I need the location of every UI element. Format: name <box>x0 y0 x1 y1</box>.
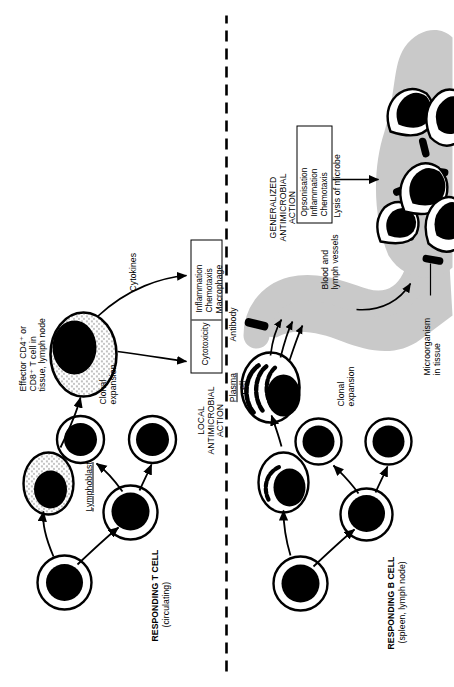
generalized-antimicrobial-action-box: Opsonisation Inflammation Chemotaxis <box>296 125 332 223</box>
generalized-antimicrobial-action-title: GENERALIZED ANTIMICROBIAL ACTION <box>268 159 297 255</box>
plasma-cell-label: Plasma cell <box>228 359 247 415</box>
t-clone-cell-2 <box>129 416 176 463</box>
plasma-cell <box>241 352 300 422</box>
responding-t-cell-sublabel: (circulating) <box>161 477 171 627</box>
microorganism-label: Microorganism in tissue <box>422 317 441 375</box>
lymphoblast-cell <box>23 452 73 514</box>
t-cell-activated <box>103 485 157 539</box>
b-cell-activated <box>340 488 392 540</box>
figure-canvas: RESPONDING T CELL (circulating) Clonal e… <box>0 0 454 687</box>
cytokines-label: Cytokines <box>128 252 138 291</box>
generalized-action-lysis: Lysis of microbe <box>332 154 342 217</box>
effector-t-cell-label: Effector CD4⁺ or CD8⁺ T cell in tissue, … <box>18 318 47 391</box>
generalized-action-chemotaxis: Chemotaxis <box>319 172 329 216</box>
local-action-cytotoxicity: Cytotoxicity <box>200 322 210 365</box>
generalized-action-inflammation: Inflammation <box>309 168 319 216</box>
b-clone-cell-2 <box>365 418 411 464</box>
b-lymphoblast-cell <box>258 452 308 512</box>
local-antimicrobial-action-title: LOCAL ANTIMICROBIAL ACTION <box>196 381 225 459</box>
local-action-macrophage-text: Macrophage <box>214 264 224 313</box>
responding-b-cell <box>273 556 327 610</box>
generalized-action-opsonisation: Opsonisation <box>299 167 309 216</box>
diagram-upright-layer: RESPONDING T CELL (circulating) Clonal e… <box>0 0 454 687</box>
antibody-label: Antibody <box>228 307 238 341</box>
blood-lymph-vessels-label: Blood and lymph vessels <box>320 234 339 289</box>
responding-b-cell-label: RESPONDING B CELL <box>386 479 396 649</box>
responding-b-cell-sublabel: (spleen, lymph node) <box>397 473 407 643</box>
t-clonal-expansion-label: Clonal expansion <box>98 364 117 404</box>
b-clone-cell-1 <box>295 418 341 464</box>
local-action-inflammation: Inflammation <box>194 264 204 312</box>
responding-t-cell <box>37 555 91 609</box>
b-clonal-expansion-label: Clonal expansion <box>336 366 355 406</box>
local-action-chemotaxis: Chemotaxis <box>204 268 214 312</box>
lymphoblast-label: Lymphoblast <box>84 461 94 511</box>
responding-t-cell-label: RESPONDING T CELL <box>150 491 160 641</box>
